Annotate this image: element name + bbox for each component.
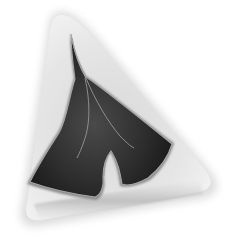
ginkgo-resin-image	[0, 0, 236, 247]
photo-scene: Grayscale photograph of a ginkgo leaf em…	[0, 0, 236, 247]
